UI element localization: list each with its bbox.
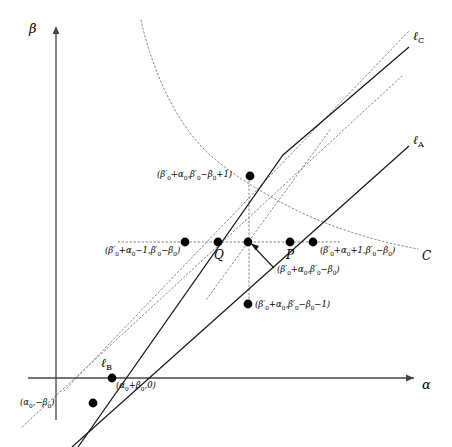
pointer-arrows [254, 247, 274, 268]
point-label-below-axis: (α0,−β0) [20, 398, 54, 409]
point-Q-dot [214, 238, 223, 247]
dotted-guides [22, 31, 409, 427]
point-upper [246, 172, 255, 181]
point-right-outer [309, 238, 318, 247]
dotted-line-upper [64, 31, 409, 391]
ell-C-subscript: C [418, 35, 424, 45]
point-center [244, 238, 253, 247]
axes-group [28, 30, 414, 420]
line-ell-A [72, 146, 409, 447]
x-axis-label: α [422, 378, 431, 391]
point-label-lower: (β′0+α0,β′0−β0−1) [255, 300, 330, 311]
point-lower [244, 300, 253, 309]
ell-A-subscript: A [418, 139, 424, 149]
point-label-right-outer: (β′0+α0+1,β′0−β0) [320, 246, 395, 257]
point-label-axis-intercept: (α0+β0,0) [116, 381, 156, 392]
point-left-outer [181, 238, 190, 247]
point-label-upper: (β′0+α0,β′0−β0+1) [157, 170, 232, 181]
curve-C [141, 20, 418, 249]
x-axis-arrowhead [406, 375, 414, 382]
geometric-diagram: β α ℓC ℓA ℓB C (β′0+α0,β′0−β0+1) (β′0+α0… [0, 0, 452, 447]
point-label-left-outer: (β′0+α0−1,β′0−β0) [105, 246, 180, 257]
point-label-P: P [286, 249, 294, 261]
line-label-ell-B: ℓB [101, 357, 112, 372]
curve-label-C: C [422, 250, 431, 262]
y-axis-label: β [29, 22, 37, 35]
point-label-center: (β′0+α0,β′0−β0) [277, 265, 340, 276]
line-label-ell-C: ℓC [413, 30, 424, 45]
arrow-to-center [254, 247, 274, 268]
ell-B-subscript: B [106, 362, 112, 372]
arrow-head-center [250, 243, 259, 251]
y-axis-arrowhead [53, 26, 60, 34]
point-below-axis [89, 399, 98, 408]
point-label-Q: Q [214, 249, 224, 261]
diagram-canvas [0, 0, 452, 447]
point-P-dot [286, 238, 295, 247]
line-label-ell-A: ℓA [413, 134, 424, 149]
data-points [89, 172, 318, 408]
